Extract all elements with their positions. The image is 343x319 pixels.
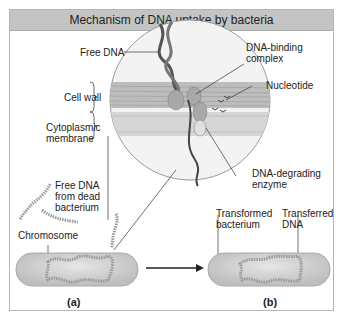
label-dna-binding-complex: DNA-bindingcomplex (246, 42, 303, 64)
label-transformed-bacterium: Transformedbacterium (216, 208, 272, 230)
bacterium-b (208, 253, 330, 286)
label-transferred-dna: TransferredDNA (282, 208, 333, 230)
label-nucleotide: Nucleotide (266, 80, 313, 91)
label-free-dna-dead-bacterium: Free DNAfrom deadbacterium (55, 180, 100, 213)
panel-label-a: (a) (67, 296, 80, 308)
label-cell-wall: Cell wall (64, 92, 101, 103)
panel-label-b: (b) (263, 296, 277, 308)
transformation-arrow (146, 264, 204, 272)
label-dna-degrading-enzyme: DNA-degradingenzyme (252, 168, 321, 190)
label-cytoplasmic-membrane: Cytoplasmicmembrane (46, 122, 100, 144)
bacterium-a (16, 253, 138, 286)
label-free-dna: Free DNA (80, 47, 124, 58)
label-chromosome: Chromosome (18, 230, 78, 241)
